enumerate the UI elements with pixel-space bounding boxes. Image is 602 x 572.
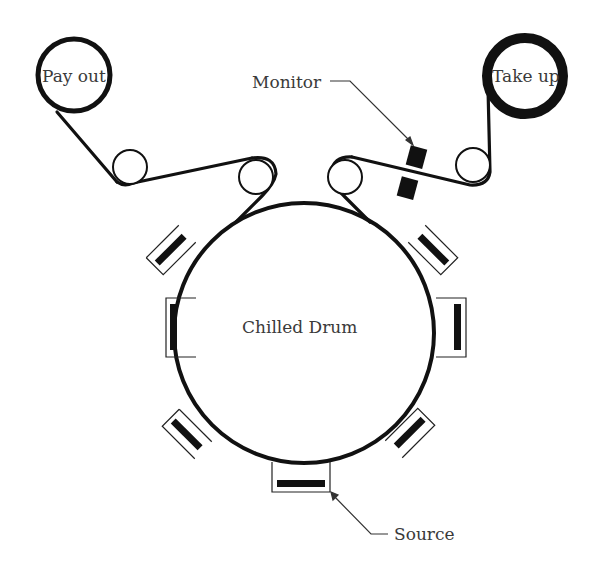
payout-label: Pay out [42,68,106,85]
monitor-label: Monitor [252,74,321,91]
source-label: Source [394,526,455,543]
idler-roller-3 [328,160,362,194]
idler-roller-2 [239,160,273,194]
drum-label: Chilled Drum [242,319,357,336]
monitor-leader-arrow [330,81,413,145]
source-leader-arrow [331,492,388,534]
idler-roller-1 [113,150,147,184]
idler-roller-4 [456,148,490,182]
diagram-canvas: Pay out Take up Monitor Chilled Drum Sou… [0,0,602,572]
takeup-label: Take up [492,68,560,85]
